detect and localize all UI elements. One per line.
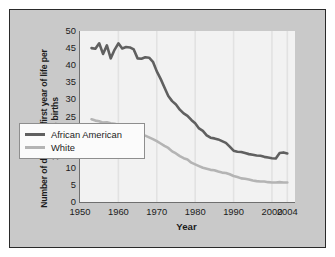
y-tick-50: 50 <box>66 26 76 35</box>
y-tick-25: 25 <box>66 112 76 121</box>
x-tick-1950: 1950 <box>70 207 91 216</box>
legend-swatch-white <box>25 146 45 149</box>
y-tick-30: 30 <box>66 95 76 104</box>
legend-swatch-african-american <box>25 133 45 136</box>
x-tick-1970: 1970 <box>146 207 167 216</box>
chart-lines <box>80 31 295 202</box>
chart-legend: African American White <box>19 123 145 159</box>
legend-item-white: White <box>25 141 139 154</box>
legend-item-african-american: African American <box>25 128 139 141</box>
x-axis-title: Year <box>79 221 294 232</box>
y-tick-10: 10 <box>66 163 76 172</box>
legend-label-african-american: African American <box>51 130 122 139</box>
y-tick-45: 45 <box>66 43 76 52</box>
chart-panel: Number of deaths in first year of life p… <box>9 9 326 248</box>
y-tick-35: 35 <box>66 78 76 87</box>
series-layer <box>92 43 288 182</box>
legend-label-white: White <box>51 143 75 152</box>
chart-figure: Number of deaths in first year of life p… <box>0 0 335 257</box>
x-tick-1960: 1960 <box>108 207 129 216</box>
x-tick-1990: 1990 <box>223 207 244 216</box>
x-tick-2004: 2004 <box>277 207 298 216</box>
plot-area: 05101520253035404550 1950196019701980199… <box>79 31 295 203</box>
y-tick-40: 40 <box>66 60 76 69</box>
y-tick-5: 5 <box>71 180 76 189</box>
x-tick-1980: 1980 <box>185 207 206 216</box>
